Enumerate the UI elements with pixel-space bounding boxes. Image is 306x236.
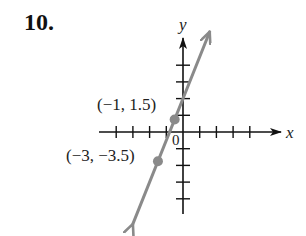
x-axis-label: x: [285, 123, 294, 142]
point-b-label: (−3, −3.5): [66, 146, 135, 165]
point-b: [153, 156, 163, 166]
line-graph: x y 0 (−1, 1.5) (−3, −3.5): [0, 0, 306, 236]
x-axis: [99, 126, 281, 138]
origin-label: 0: [172, 132, 180, 148]
y-axis-label: y: [177, 15, 187, 34]
point-a-label: (−1, 1.5): [97, 95, 156, 114]
point-a: [170, 114, 180, 124]
graph-line: [133, 32, 210, 224]
y-axis: [176, 38, 190, 214]
